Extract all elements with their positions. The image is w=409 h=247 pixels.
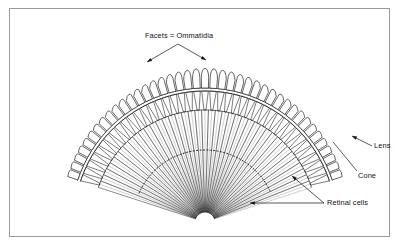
- label-lens: Lens: [374, 142, 390, 149]
- label-retinal-cells: Retinal cells: [327, 199, 368, 206]
- label-facets-ommatidia: Facets = Ommatidia: [145, 32, 213, 39]
- label-cone: Cone: [358, 172, 376, 179]
- figure-root: Facets = Ommatidia Lens Cone Retinal cel…: [0, 0, 409, 247]
